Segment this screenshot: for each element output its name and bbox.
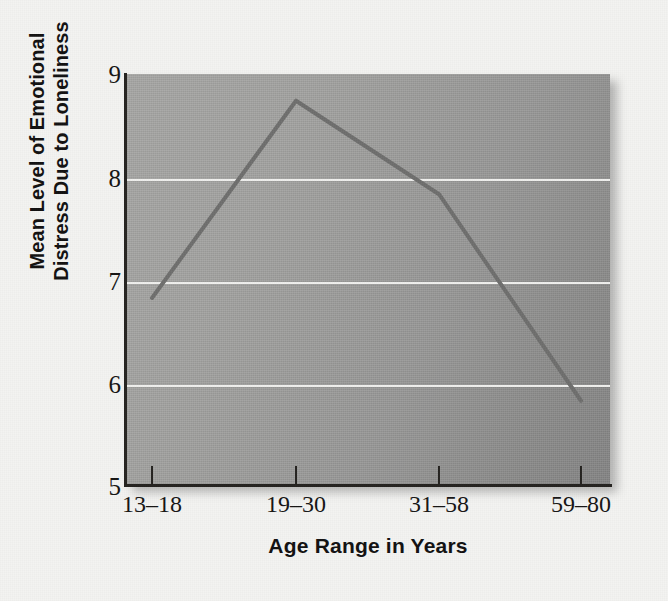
x-tick-mark-1 xyxy=(151,466,153,485)
data-series-line xyxy=(126,74,610,485)
y-axis-title-line-1: Mean Level of Emotional xyxy=(26,33,50,270)
plot-area xyxy=(126,74,610,485)
y-tick-label-7: 7 xyxy=(81,269,121,294)
x-tick-mark-2 xyxy=(295,466,297,485)
x-tick-label-19-30: 19–30 xyxy=(231,492,361,516)
x-tick-label-59-80: 59–80 xyxy=(516,492,646,516)
y-axis-title: Mean Level of Emotional Distress Due to … xyxy=(24,0,76,361)
x-tick-label-13-18: 13–18 xyxy=(87,492,217,516)
x-tick-label-31-58: 31–58 xyxy=(374,492,504,516)
y-tick-label-6: 6 xyxy=(81,372,121,397)
y-axis-title-line-2: Distress Due to Loneliness xyxy=(50,21,74,280)
x-axis-title: Age Range in Years xyxy=(124,534,612,558)
x-tick-mark-4 xyxy=(580,466,582,485)
y-tick-label-8: 8 xyxy=(81,166,121,191)
x-tick-mark-3 xyxy=(438,466,440,485)
line-chart-figure: 9 8 7 6 5 13–18 19–30 31–58 59–80 Age Ra… xyxy=(0,0,668,601)
y-axis-line xyxy=(124,73,127,487)
x-axis-line xyxy=(124,484,612,487)
y-tick-label-9: 9 xyxy=(81,62,121,87)
